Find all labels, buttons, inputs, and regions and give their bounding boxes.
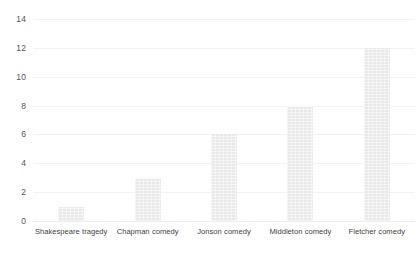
x-axis: Shakespeare tragedyChapman comedyJonson … (33, 226, 415, 265)
x-tick-label: Jonson comedy (186, 226, 262, 238)
y-tick-label-6: 6 (21, 130, 26, 139)
bar[interactable] (364, 48, 390, 221)
bar[interactable] (135, 178, 161, 221)
gridline-0 (33, 221, 415, 222)
x-tick-label: Chapman comedy (109, 226, 185, 238)
y-tick-label-10: 10 (16, 72, 26, 81)
bars-layer (33, 19, 415, 221)
y-tick-label-12: 12 (16, 43, 26, 52)
bar-slot (186, 19, 262, 221)
y-tick-label-4: 4 (21, 159, 26, 168)
bar-slot (33, 19, 109, 221)
bar-chart: 14121086420 Shakespeare tragedyChapman c… (0, 0, 419, 265)
y-tick-label-0: 0 (21, 217, 26, 226)
y-tick-label-8: 8 (21, 101, 26, 110)
bar[interactable] (211, 134, 237, 221)
bar[interactable] (287, 106, 313, 221)
bar-slot (262, 19, 338, 221)
bar[interactable] (58, 207, 84, 221)
bar-slot (109, 19, 185, 221)
x-tick-label: Middleton comedy (262, 226, 338, 238)
x-tick-label: Fletcher comedy (339, 226, 415, 238)
y-tick-label-2: 2 (21, 188, 26, 197)
y-axis: 14121086420 (0, 0, 33, 265)
x-tick-label: Shakespeare tragedy (33, 226, 109, 238)
y-tick-label-14: 14 (16, 15, 26, 24)
bar-slot (339, 19, 415, 221)
